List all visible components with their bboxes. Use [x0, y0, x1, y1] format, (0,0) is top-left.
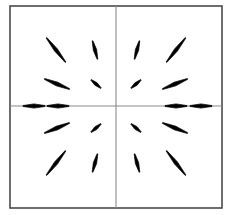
figure-container — [0, 0, 231, 215]
orientation-field-plot — [0, 0, 231, 215]
